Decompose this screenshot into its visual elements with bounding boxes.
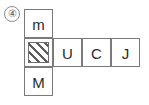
grid-cell-bottom[interactable]: M	[24, 67, 53, 96]
grid-cell-bottom-label: M	[25, 68, 52, 96]
grid-cell-top-label: m	[25, 10, 52, 38]
diagonal-hatch-icon	[28, 42, 49, 63]
puzzle-figure: ④ m U C J M	[0, 0, 149, 105]
grid-cell-middle-3[interactable]: J	[111, 38, 140, 67]
item-number-marker: ④	[4, 6, 20, 22]
grid-cell-middle-3-label: J	[112, 39, 139, 67]
letter-grid: m U C J M	[24, 9, 140, 96]
grid-cell-shaded[interactable]	[24, 38, 53, 67]
grid-cell-middle-1[interactable]: U	[53, 38, 82, 67]
grid-cell-middle-2[interactable]: C	[82, 38, 111, 67]
grid-cell-middle-1-label: U	[54, 39, 81, 67]
grid-cell-middle-2-label: C	[83, 39, 110, 67]
grid-cell-top[interactable]: m	[24, 9, 53, 38]
